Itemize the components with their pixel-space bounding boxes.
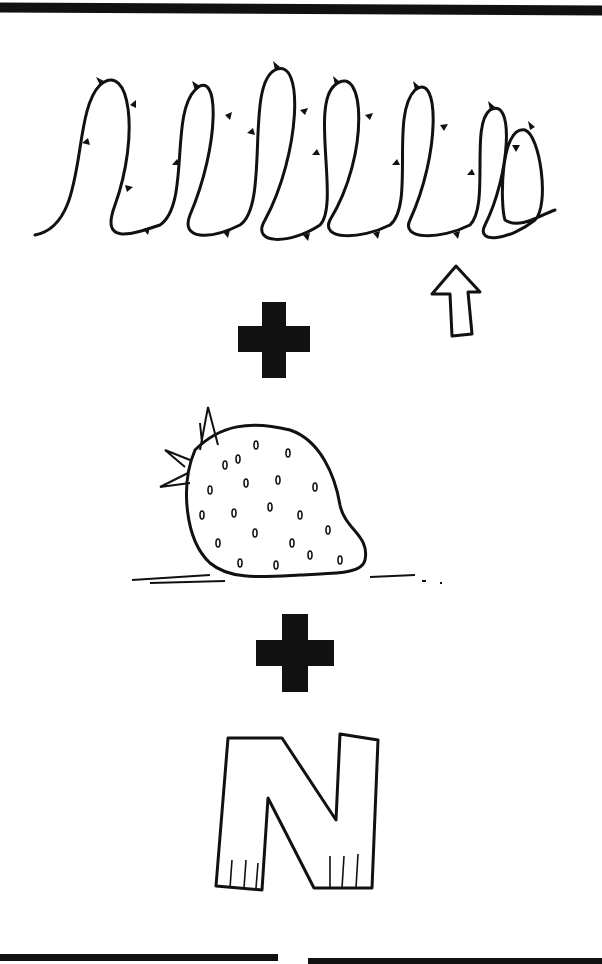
arrow-up-icon [428, 262, 488, 338]
plus-icon [236, 300, 312, 380]
bottom-border-right [308, 958, 602, 964]
bottom-border-left [0, 954, 278, 961]
strawberry-illustration [130, 395, 450, 590]
letter-n-illustration [210, 728, 390, 898]
top-border [0, 2, 602, 15]
thorny-coil-illustration [30, 55, 570, 265]
plus-icon [254, 612, 336, 694]
